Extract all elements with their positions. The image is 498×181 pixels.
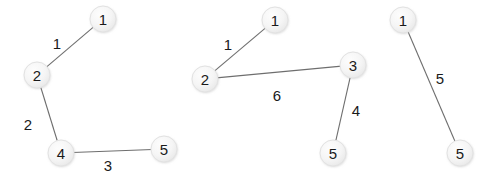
graph-edge (408, 31, 456, 143)
graph-edge (216, 66, 341, 78)
graph-node[interactable]: 1 (390, 7, 416, 33)
graph-node[interactable]: 5 (151, 136, 177, 162)
node-label: 1 (99, 11, 107, 28)
node-label: 1 (399, 12, 407, 29)
graph-diagram-canvas: 1245123515 1231645 (0, 0, 498, 181)
graph-node[interactable]: 5 (320, 140, 346, 166)
graph-node[interactable]: 5 (447, 140, 473, 166)
graph-edge (214, 27, 266, 71)
node-label: 5 (160, 141, 168, 158)
graph-node[interactable]: 1 (90, 6, 116, 32)
node-label: 3 (349, 57, 357, 74)
node-label: 4 (57, 145, 65, 162)
node-label: 5 (329, 145, 337, 162)
graph-edge (72, 149, 152, 152)
edge-weight-label: 2 (24, 116, 32, 133)
graph-node[interactable]: 2 (192, 66, 218, 92)
node-label: 5 (456, 145, 464, 162)
edge-weight-label: 1 (53, 35, 61, 52)
node-label: 2 (33, 67, 41, 84)
node-label: 1 (271, 12, 279, 29)
edge-weight-label: 1 (224, 36, 232, 53)
graph-svg-layer: 1245123515 1231645 (0, 0, 498, 181)
edge-weight-label: 6 (273, 87, 281, 104)
graph-edge (336, 76, 351, 142)
graph-edge (40, 86, 57, 142)
edge-labels-group: 1231645 (24, 35, 444, 174)
graph-node[interactable]: 2 (24, 62, 50, 88)
graph-node[interactable]: 4 (48, 140, 74, 166)
edge-weight-label: 5 (436, 70, 444, 87)
edges-group (40, 26, 455, 152)
edge-weight-label: 4 (352, 102, 360, 119)
nodes-group: 1245123515 (24, 6, 473, 166)
edge-weight-label: 3 (104, 157, 112, 174)
graph-node[interactable]: 3 (340, 52, 366, 78)
graph-node[interactable]: 1 (262, 7, 288, 33)
node-label: 2 (201, 71, 209, 88)
